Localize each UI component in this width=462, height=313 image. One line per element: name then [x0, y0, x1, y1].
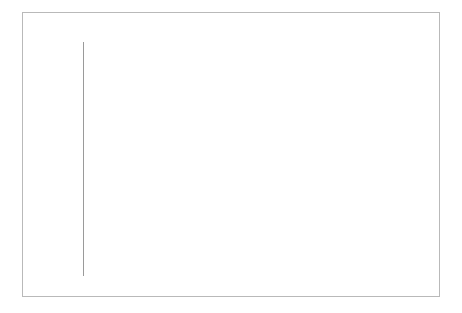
chart-frame: [22, 12, 440, 297]
bar-series-layer: [83, 42, 358, 276]
y-axis-tick-labels: [41, 42, 79, 276]
